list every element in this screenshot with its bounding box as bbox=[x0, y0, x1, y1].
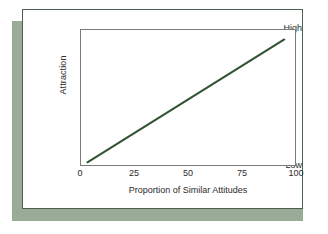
chart-card: Attraction High Low 0255075100 Proportio… bbox=[22, 9, 303, 209]
x-axis-tick-label: 0 bbox=[77, 168, 82, 178]
x-axis-title: Proportion of Similar Attitudes bbox=[80, 185, 296, 195]
plot-svg bbox=[81, 30, 295, 165]
x-axis-tick-row: 0255075100 bbox=[80, 168, 296, 182]
figure-root: Attraction High Low 0255075100 Proportio… bbox=[0, 0, 328, 234]
trend-line bbox=[87, 39, 284, 162]
x-axis-tick-label: 25 bbox=[129, 168, 139, 178]
x-axis-tick-label: 75 bbox=[237, 168, 247, 178]
y-axis-title: Attraction bbox=[58, 30, 68, 120]
x-axis-tick-label: 50 bbox=[183, 168, 193, 178]
x-axis-tick-label: 100 bbox=[288, 168, 303, 178]
plot-area bbox=[80, 29, 296, 166]
